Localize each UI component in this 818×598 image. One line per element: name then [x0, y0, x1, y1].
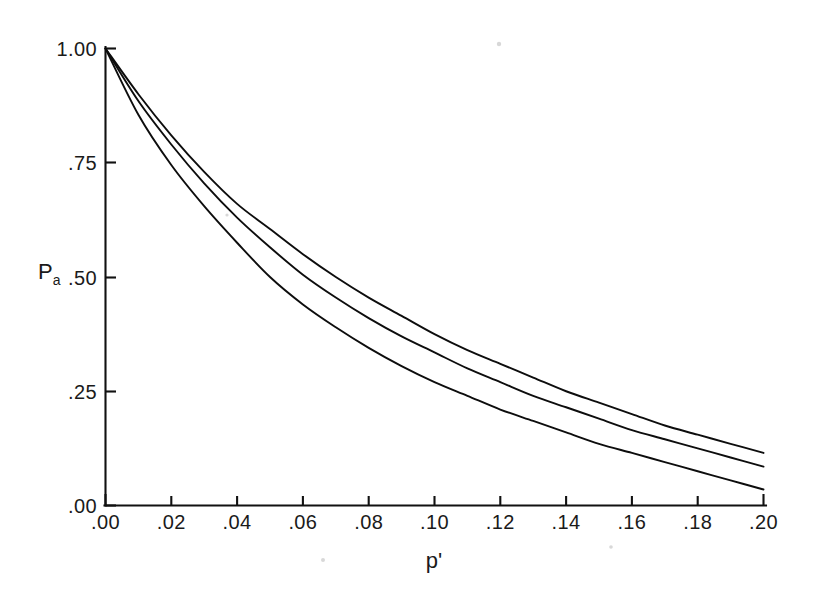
line-series-lower [106, 49, 764, 490]
x-tick-label-.06: .06 [288, 511, 317, 533]
x-axis-ticks [106, 494, 764, 506]
y-axis-title: Pa [38, 259, 61, 288]
noise-speck [225, 213, 228, 216]
x-axis-tick-labels: .00 .02 .04 .06 .08 .10 .12 .14 .16 .18 … [91, 511, 778, 533]
x-tick-label-.00: .00 [91, 511, 120, 533]
y-tick-label-0.75: .75 [68, 152, 97, 174]
chart-figure: 1.00 .75 .50 .25 .00 .00 .02 .04 .06 .08… [0, 0, 818, 598]
line-series-middle [106, 49, 764, 467]
x-tick-label-.16: .16 [617, 511, 646, 533]
x-tick-label-.08: .08 [354, 511, 383, 533]
x-tick-label-.02: .02 [157, 511, 186, 533]
x-tick-label-.04: .04 [223, 511, 252, 533]
y-axis-ticks [106, 49, 117, 506]
chart-canvas: 1.00 .75 .50 .25 .00 .00 .02 .04 .06 .08… [0, 0, 818, 598]
noise-speck [497, 42, 501, 46]
x-axis-title: p' [426, 548, 442, 573]
x-tick-label-.14: .14 [552, 511, 581, 533]
axes [105, 47, 767, 506]
data-curves [106, 49, 764, 490]
y-axis-title-main: P [38, 259, 53, 284]
x-tick-label-.10: .10 [420, 511, 449, 533]
line-series-upper [106, 49, 764, 453]
x-tick-label-.12: .12 [486, 511, 515, 533]
x-tick-label-.20: .20 [749, 511, 778, 533]
y-axis-title-subscript: a [53, 272, 61, 288]
y-axis-tick-labels: 1.00 .75 .50 .25 .00 [56, 38, 97, 517]
noise-speck [609, 545, 613, 549]
x-tick-label-.18: .18 [683, 511, 712, 533]
noise-speck [321, 558, 325, 562]
y-tick-label-0.25: .25 [68, 381, 97, 403]
y-tick-label-0.50: .50 [68, 267, 97, 289]
y-tick-label-1.00: 1.00 [56, 38, 97, 60]
